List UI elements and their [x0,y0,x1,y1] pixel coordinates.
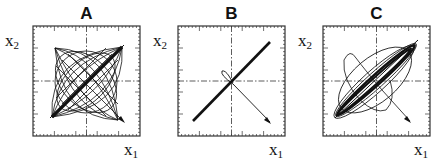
trajectory-b [193,42,271,124]
panel-b: B x2 x1 [145,0,293,163]
axis-frame [323,26,430,136]
phase-plot-c [290,0,438,163]
phase-plot-b [145,0,293,163]
panel-c: C x2 x1 [290,0,438,163]
panel-a: A x2 x1 [0,0,148,163]
trajectory-c [327,35,423,126]
trajectory-a [44,40,129,125]
phase-plot-a [0,0,148,163]
